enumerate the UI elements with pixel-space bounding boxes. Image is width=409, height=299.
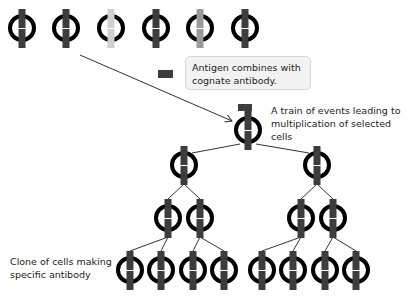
clone-cell-5 xyxy=(250,251,274,290)
lymphocyte-cell-4 xyxy=(144,9,168,48)
daughter-cell-gen2-4 xyxy=(321,199,345,238)
clone-cell-4 xyxy=(212,251,236,290)
clone-cell-1 xyxy=(118,251,142,290)
clone-cell-7 xyxy=(313,251,337,290)
receptor-top-icon xyxy=(221,251,228,270)
receptor-bottom-icon xyxy=(259,271,266,290)
branch-line xyxy=(333,237,356,251)
receptor-top-icon xyxy=(197,9,204,28)
receptor-top-icon xyxy=(298,199,305,218)
daughter-cell-gen2-1 xyxy=(156,199,180,238)
receptor-top-icon xyxy=(108,9,115,28)
receptor-top-icon xyxy=(197,199,204,218)
receptor-top-icon xyxy=(181,146,188,165)
receptor-top-icon xyxy=(158,251,165,270)
train-label-line-1: A train of events leading to xyxy=(271,104,409,117)
daughter-cell-gen1-1 xyxy=(172,146,196,185)
receptor-top-icon xyxy=(63,9,70,28)
receptor-bottom-icon xyxy=(298,219,305,238)
daughter-cell-gen2-2 xyxy=(188,199,212,238)
receptor-bottom-icon xyxy=(181,166,188,185)
callout-line-1: Antigen combines with xyxy=(192,61,304,74)
branch-line xyxy=(325,237,333,251)
receptor-top-icon xyxy=(127,251,134,270)
lymphocyte-cell-2 xyxy=(54,9,78,48)
receptor-bottom-icon xyxy=(353,271,360,290)
clone-label: Clone of cells making specific antibody xyxy=(10,255,120,281)
branch-line xyxy=(200,237,224,251)
receptor-top-icon xyxy=(242,9,249,28)
clone-cell-6 xyxy=(281,251,305,290)
branch-line xyxy=(301,184,317,199)
receptor-bottom-icon xyxy=(63,29,70,48)
branch-line xyxy=(184,184,200,199)
receptor-bottom-icon xyxy=(322,271,329,290)
receptor-bottom-icon xyxy=(290,271,297,290)
receptor-bottom-icon xyxy=(197,219,204,238)
receptor-bottom-icon xyxy=(242,29,249,48)
cells xyxy=(10,9,368,290)
receptor-top-icon xyxy=(19,9,26,28)
lymphocyte-cell-6 xyxy=(233,9,257,48)
branch-line xyxy=(193,237,200,251)
receptor-top-icon xyxy=(245,111,252,130)
receptor-top-icon xyxy=(330,199,337,218)
branch-line xyxy=(168,184,184,199)
receptor-bottom-icon xyxy=(153,29,160,48)
receptor-top-icon xyxy=(353,251,360,270)
callout-line-2: cognate antibody. xyxy=(192,74,304,87)
receptor-bottom-icon xyxy=(314,166,321,185)
receptor-top-icon xyxy=(259,251,266,270)
clone-label-line-1: Clone of cells making xyxy=(10,255,120,268)
lymphocyte-cell-1 xyxy=(10,9,34,48)
receptor-top-icon xyxy=(190,251,197,270)
bound-antigen-icon xyxy=(238,104,252,111)
receptor-bottom-icon xyxy=(127,271,134,290)
receptor-bottom-icon xyxy=(197,29,204,48)
branch-line xyxy=(317,184,333,199)
receptor-bottom-icon xyxy=(190,271,197,290)
receptor-bottom-icon xyxy=(19,29,26,48)
lymphocyte-cell-3 xyxy=(99,9,123,48)
receptor-bottom-icon xyxy=(165,219,172,238)
receptor-bottom-icon xyxy=(330,219,337,238)
train-of-events-label: A train of events leading to multiplicat… xyxy=(271,104,409,143)
receptor-bottom-icon xyxy=(108,29,115,48)
branch-line xyxy=(192,144,240,153)
antigen-callout: Antigen combines with cognate antibody. xyxy=(185,56,311,90)
receptor-bottom-icon xyxy=(245,131,252,150)
branch-line xyxy=(256,144,309,153)
clone-cell-2 xyxy=(149,251,173,290)
daughter-cell-gen2-3 xyxy=(289,199,313,238)
receptor-top-icon xyxy=(153,9,160,28)
branch-line xyxy=(262,237,301,251)
receptor-top-icon xyxy=(322,251,329,270)
receptor-top-icon xyxy=(314,146,321,165)
receptor-top-icon xyxy=(165,199,172,218)
antigen-icon xyxy=(158,70,173,78)
receptor-top-icon xyxy=(290,251,297,270)
clone-cell-3 xyxy=(181,251,205,290)
clone-cell-8 xyxy=(344,251,368,290)
daughter-cell-gen1-2 xyxy=(305,146,329,185)
receptor-bottom-icon xyxy=(221,271,228,290)
receptor-bottom-icon xyxy=(158,271,165,290)
lymphocyte-cell-5 xyxy=(188,9,212,48)
train-label-line-2: multiplication of selected cells xyxy=(271,117,409,143)
clone-label-line-2: specific antibody xyxy=(10,268,120,281)
